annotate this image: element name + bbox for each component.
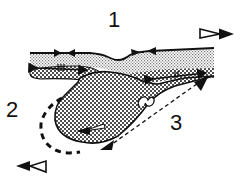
label-3: 3	[170, 110, 182, 135]
tectonic-diagram: 1 2	[0, 0, 246, 181]
open-arrow-left-icon	[16, 161, 46, 172]
drip-body	[55, 72, 214, 144]
label-2: 2	[6, 97, 18, 122]
label-1: 1	[108, 7, 120, 32]
open-arrow-right-icon	[200, 29, 234, 40]
